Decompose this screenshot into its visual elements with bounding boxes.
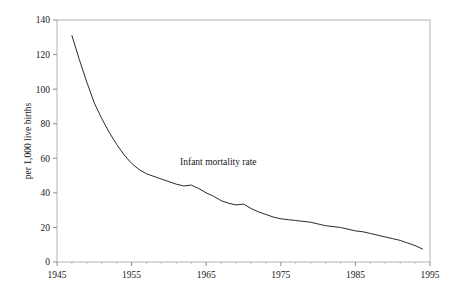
x-tick-label-1985: 1985 — [346, 270, 365, 280]
y-tick-label-140: 140 — [36, 15, 51, 25]
y-tick-label-40: 40 — [41, 188, 51, 198]
x-tick-label-1995: 1995 — [421, 270, 440, 280]
chart-canvas: 020406080100120140 194519551965197519851… — [0, 0, 453, 297]
chart-background — [0, 0, 453, 297]
x-tick-label-1975: 1975 — [271, 270, 290, 280]
series-annotation-label: Infant mortality rate — [180, 157, 257, 167]
y-tick-label-0: 0 — [45, 257, 50, 267]
x-tick-label-1965: 1965 — [197, 270, 216, 280]
y-tick-label-120: 120 — [36, 50, 51, 60]
y-tick-label-60: 60 — [41, 154, 51, 164]
x-tick-label-1945: 1945 — [48, 270, 67, 280]
y-axis-title: per 1,000 live births — [23, 102, 33, 179]
x-tick-label-1955: 1955 — [122, 270, 141, 280]
y-tick-label-80: 80 — [41, 119, 51, 129]
y-tick-label-20: 20 — [41, 223, 51, 233]
y-tick-label-100: 100 — [36, 85, 51, 95]
infant-mortality-chart: 020406080100120140 194519551965197519851… — [0, 0, 453, 297]
